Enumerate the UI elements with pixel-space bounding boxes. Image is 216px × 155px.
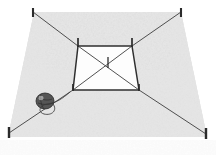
drawing-canvas [0,0,216,155]
scan-artifact-band [0,140,216,155]
twine-ball-body [36,93,54,109]
scan-noise [0,140,216,155]
twine-ball-highlight [38,96,43,100]
illustration-figure [0,0,216,155]
